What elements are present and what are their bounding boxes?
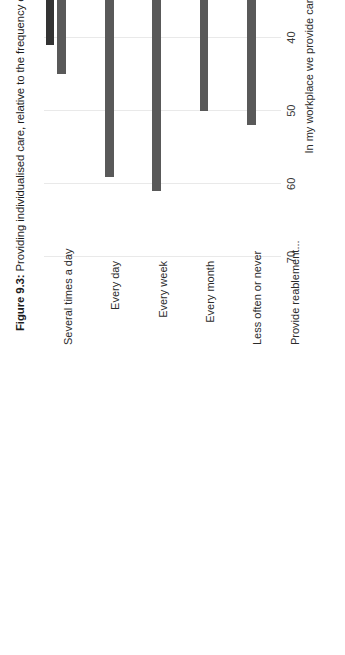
figure-chart: Figure 9.3: Providing individualised car… bbox=[0, 0, 345, 345]
plot-area bbox=[44, 0, 281, 257]
value-axis-tick-label: 50 bbox=[285, 105, 297, 117]
figure-title: Figure 9.3: Providing individualised car… bbox=[14, 0, 27, 331]
category-axis-label: Every week bbox=[157, 261, 169, 345]
rotated-figure-canvas: Figure 9.3: Providing individualised car… bbox=[0, 0, 345, 345]
bar-group bbox=[44, 0, 91, 257]
bar-group bbox=[139, 0, 186, 257]
value-axis-title: In my workplace we provide care accordin… bbox=[303, 0, 316, 257]
bar bbox=[152, 0, 161, 191]
category-axis-label: Every day bbox=[109, 261, 121, 345]
bar-group bbox=[91, 0, 138, 257]
bar bbox=[105, 0, 114, 177]
bar bbox=[57, 0, 66, 74]
category-axis-label: Every month bbox=[204, 261, 216, 345]
bar-group bbox=[186, 0, 233, 257]
figure-number-label: Figure 9.3: bbox=[14, 275, 26, 332]
value-axis-tick-label: 70 bbox=[285, 251, 297, 263]
bar bbox=[247, 0, 256, 125]
value-axis-tick-label: 60 bbox=[285, 178, 297, 190]
bar bbox=[46, 0, 55, 45]
figure-caption-text: Providing individualised care, relative … bbox=[14, 0, 26, 271]
category-axis-label: Less often or never bbox=[251, 261, 263, 345]
category-axis-label: Several times a day bbox=[62, 261, 74, 345]
value-axis-tick-label: 40 bbox=[285, 31, 297, 43]
bar-group bbox=[234, 0, 281, 257]
bar bbox=[200, 0, 209, 111]
category-axis-title: Provide reablement... bbox=[289, 261, 301, 345]
